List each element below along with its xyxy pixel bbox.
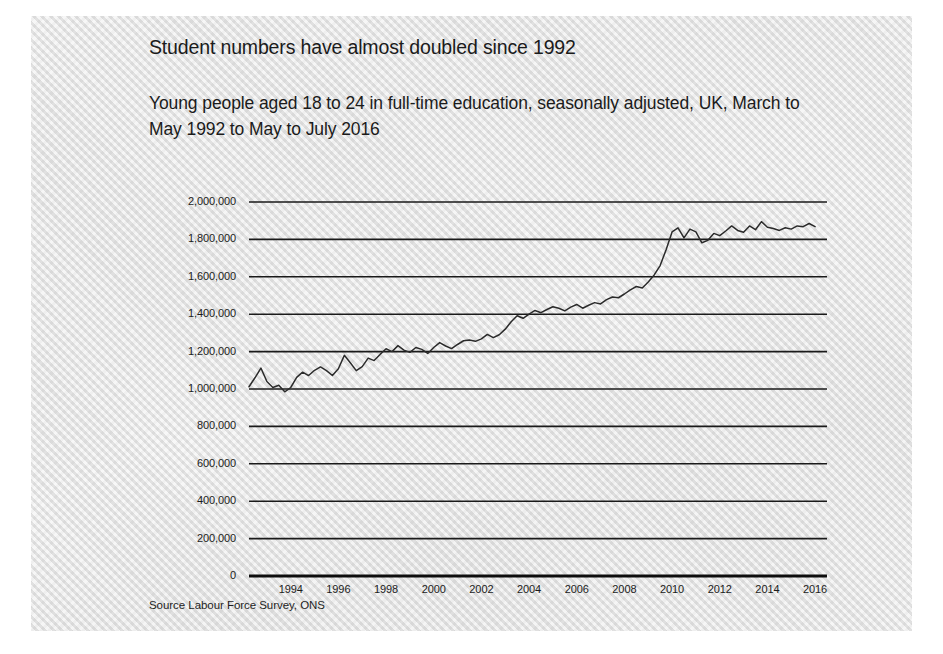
y-axis-tick-label: 1,600,000 xyxy=(121,270,236,282)
y-axis-tick-label: 1,200,000 xyxy=(121,345,236,357)
chart-panel: Student numbers have almost doubled sinc… xyxy=(31,16,912,631)
y-axis-tick-label: 800,000 xyxy=(121,419,236,431)
source-note: Source Labour Force Survey, ONS xyxy=(149,599,325,611)
page-root: Student numbers have almost doubled sinc… xyxy=(0,0,943,654)
y-axis-tick-label: 1,000,000 xyxy=(121,382,236,394)
y-axis-tick-label: 0 xyxy=(121,569,236,581)
gridlines-group xyxy=(249,202,827,539)
chart-plot-area: 0200,000400,000600,000800,0001,000,0001,… xyxy=(31,16,912,631)
y-axis-tick-label: 1,800,000 xyxy=(121,232,236,244)
y-axis-tick-label: 200,000 xyxy=(121,532,236,544)
y-axis-tick-label: 2,000,000 xyxy=(121,195,236,207)
y-axis-tick-label: 1,400,000 xyxy=(121,307,236,319)
y-axis-tick-label: 600,000 xyxy=(121,457,236,469)
data-series-group xyxy=(249,222,815,392)
x-axis-tick-label: 2016 xyxy=(785,583,845,595)
y-axis-tick-label: 400,000 xyxy=(121,494,236,506)
series-line xyxy=(249,222,815,392)
